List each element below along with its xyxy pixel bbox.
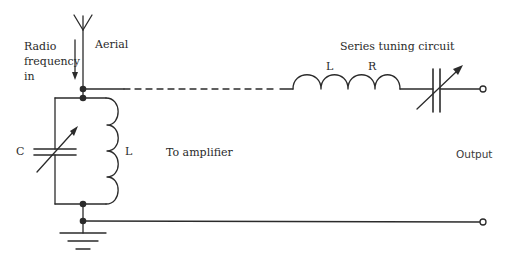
aerial-label: Aerial: [95, 38, 128, 51]
circuit-diagram: Radio frequency in Aerial C L To amplifi…: [0, 0, 509, 264]
series-inductor-icon: [293, 75, 433, 89]
series-inductor-label: L: [326, 60, 333, 73]
rf-in-label-line2: frequency: [24, 55, 80, 68]
tank-capacitor-label: C: [16, 145, 24, 158]
antenna-icon: [74, 15, 92, 89]
to-amplifier-label: To amplifier: [166, 146, 233, 159]
series-tuning-title: Series tuning circuit: [340, 40, 454, 53]
bottom-return-wire: [83, 221, 480, 222]
rf-in-label-line1: Radio: [24, 40, 56, 53]
tank-inductor-label: L: [125, 145, 132, 158]
series-resistor-label: R: [368, 60, 376, 73]
tank-inductor-icon: [83, 98, 118, 204]
ground-icon: [60, 221, 106, 249]
tank-capacitor-icon: [34, 98, 83, 204]
rf-in-label-line3: in: [24, 70, 35, 83]
output-label: Output: [456, 148, 492, 161]
output-terminal-top: [480, 86, 486, 92]
output-terminal-bottom: [480, 219, 486, 225]
